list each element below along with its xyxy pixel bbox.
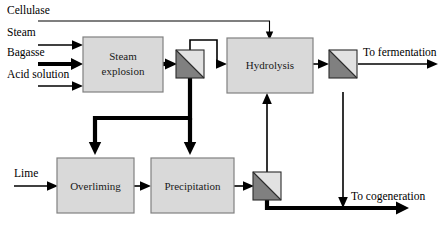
- label-acid-solution: Acid solution: [7, 68, 70, 80]
- label-cellulase: Cellulase: [7, 4, 50, 16]
- steam-explosion-label-line1: Steam: [109, 50, 137, 62]
- process-box-overliming[interactable]: Overliming: [57, 158, 134, 213]
- hydrolysis-label: Hydrolysis: [246, 59, 294, 71]
- connector-steamexplosion-to-separator1: [163, 58, 177, 69]
- connector-separator3-to-cogeneration: [267, 200, 409, 215]
- connector-lime-to-overliming: [14, 181, 58, 191]
- label-bagasse: Bagasse: [7, 46, 45, 59]
- separator-hydrolysis[interactable]: [329, 50, 357, 78]
- label-to-cogeneration: To cogeneration: [351, 190, 425, 203]
- overliming-label: Overliming: [70, 180, 121, 192]
- separator-precipitation[interactable]: [253, 172, 281, 200]
- connector-steam-to-steam-explosion: [38, 40, 83, 50]
- label-steam: Steam: [7, 26, 36, 38]
- precipitation-label: Precipitation: [164, 180, 221, 192]
- steam-explosion-label-line2: explosion: [102, 65, 145, 77]
- connector-separator2-to-fermentation: [358, 59, 438, 69]
- label-lime: Lime: [14, 167, 38, 179]
- connector-hydrolysis-to-separator2: [313, 59, 329, 69]
- connector-separator3-to-hydrolysis: [262, 93, 272, 172]
- process-box-hydrolysis[interactable]: Hydrolysis: [227, 38, 313, 93]
- connector-overliming-to-precipitation: [134, 181, 151, 191]
- process-box-precipitation[interactable]: Precipitation: [151, 158, 234, 213]
- flow-diagram-canvas: Steam explosion Hydrolysis Overliming Pr…: [0, 0, 446, 227]
- connector-precipitation-to-separator3: [234, 181, 254, 191]
- separator-steam-explosion[interactable]: [176, 50, 204, 78]
- connector-separator2-to-cogeneration: [338, 92, 348, 208]
- process-box-steam-explosion[interactable]: Steam explosion: [83, 37, 163, 92]
- process-flow-diagram: Steam explosion Hydrolysis Overliming Pr…: [0, 0, 446, 227]
- connector-acid-to-steam-explosion: [38, 81, 83, 91]
- label-to-fermentation: To fermentation: [363, 46, 437, 58]
